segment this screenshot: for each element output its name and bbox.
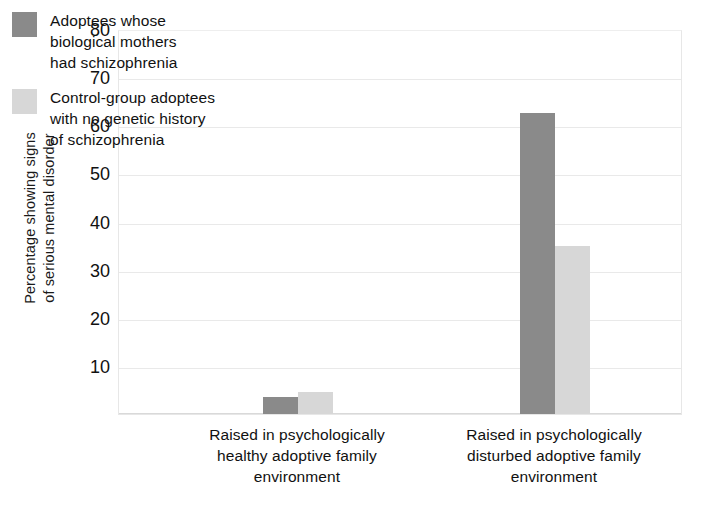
legend-label-line: Adoptees whose: [50, 10, 178, 31]
legend-label-line: with no genetic history: [50, 108, 215, 129]
x-axis-category-label-line: environment: [429, 466, 679, 487]
legend-label-line: biological mothers: [50, 31, 178, 52]
legend-label-line: Control-group adoptees: [50, 87, 215, 108]
legend-label-line: of schizophrenia: [50, 129, 215, 150]
x-axis-category-label-2: Raised in psychologicallydisturbed adopt…: [429, 424, 679, 487]
y-axis-tick-label: 40: [66, 214, 110, 232]
x-axis-category-label-line: healthy adoptive family: [172, 445, 422, 466]
y-axis-tick-label: 20: [66, 310, 110, 328]
chart-legend: Adoptees whosebiological mothershad schi…: [12, 10, 312, 164]
x-axis-baseline: [119, 413, 681, 414]
x-axis-category-label-1: Raised in psychologicallyhealthy adoptiv…: [172, 424, 422, 487]
gridline: [119, 320, 681, 321]
bar-chart: Percentage showing signs of serious ment…: [0, 0, 714, 529]
bar-series-2-group-2: [555, 246, 590, 414]
gridline: [119, 368, 681, 369]
legend-label: Control-group adopteeswith no genetic hi…: [50, 87, 215, 150]
legend-item-1[interactable]: Adoptees whosebiological mothershad schi…: [12, 10, 312, 73]
legend-label-line: had schizophrenia: [50, 52, 178, 73]
y-axis-tick-label: 30: [66, 262, 110, 280]
gridline: [119, 272, 681, 273]
bar-series-1-group-1: [263, 397, 298, 414]
gridline: [119, 224, 681, 225]
x-axis-category-label-line: Raised in psychologically: [429, 424, 679, 445]
legend-swatch-icon: [12, 89, 37, 114]
legend-item-2[interactable]: Control-group adopteeswith no genetic hi…: [12, 87, 312, 150]
bar-series-2-group-1: [298, 392, 333, 414]
x-axis-category-labels: Raised in psychologicallyhealthy adoptiv…: [118, 424, 682, 504]
legend-label: Adoptees whosebiological mothershad schi…: [50, 10, 178, 73]
x-axis-category-label-line: environment: [172, 466, 422, 487]
y-axis-tick-label: 50: [66, 165, 110, 183]
x-axis-category-label-line: disturbed adoptive family: [429, 445, 679, 466]
y-axis-tick-label: 10: [66, 358, 110, 376]
x-axis-category-label-line: Raised in psychologically: [172, 424, 422, 445]
gridline: [119, 175, 681, 176]
bar-series-1-group-2: [520, 113, 555, 414]
legend-swatch-icon: [12, 12, 37, 37]
